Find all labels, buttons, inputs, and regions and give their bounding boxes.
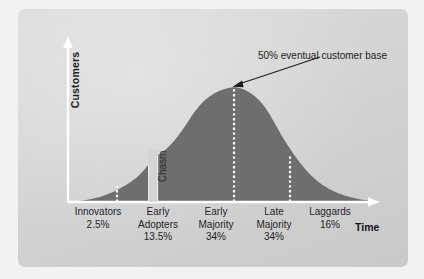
callout-arrowhead (233, 81, 244, 88)
segment-label-laggards: Laggards 16% (294, 206, 366, 231)
segment-percent: 34% (238, 231, 310, 244)
x-axis-arrowhead (368, 197, 380, 207)
segment-name-line1: Early (147, 206, 170, 217)
callout-leader-line (239, 57, 320, 84)
curve-early-segment (68, 165, 148, 202)
chasm-label: Chasm (157, 138, 168, 196)
chart-screenshot: Customers Chasm 50% eventual customer ba… (0, 0, 424, 279)
segment-name-line1: Early (205, 206, 228, 217)
segment-name: Innovators (75, 206, 122, 217)
y-axis-label: Customers (69, 35, 81, 125)
callout-label: 50% eventual customer base (258, 50, 387, 61)
segment-percent: 16% (294, 219, 366, 232)
segment-name-line1: Late (264, 206, 283, 217)
segment-name: Laggards (309, 206, 351, 217)
curve-main-bell (158, 87, 376, 202)
